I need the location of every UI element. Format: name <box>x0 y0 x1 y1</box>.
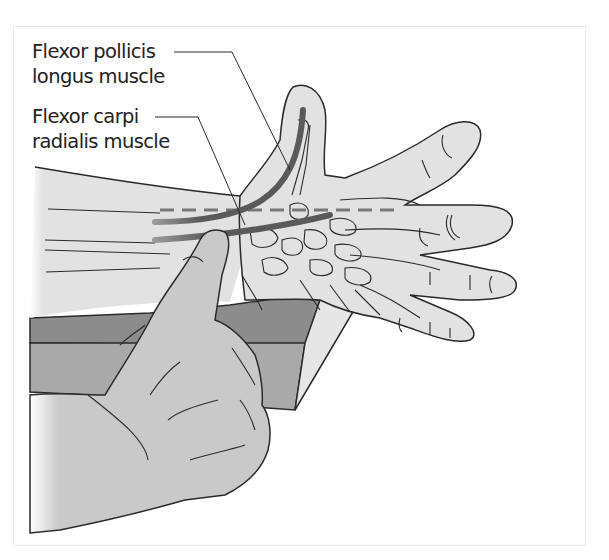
label-flexor-pollicis-longus: Flexor pollicis longus muscle <box>32 40 165 90</box>
label-line-1: Flexor carpi <box>32 105 170 130</box>
label-line-1: Flexor pollicis <box>32 40 165 65</box>
label-line-2: longus muscle <box>32 65 165 90</box>
label-flexor-carpi-radialis: Flexor carpi radialis muscle <box>32 105 170 155</box>
label-line-2: radialis muscle <box>32 130 170 155</box>
